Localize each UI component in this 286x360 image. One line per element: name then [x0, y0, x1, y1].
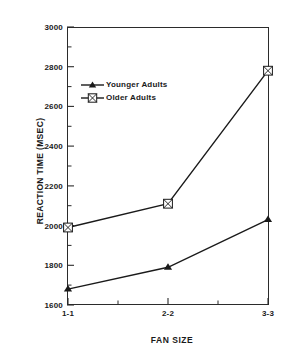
chart-figure: REACTION TIME (MSEC) 3000 2800 2600 2400…: [0, 0, 286, 360]
filled-triangle-marker-icon: [80, 79, 105, 91]
legend-label: Older Adults: [105, 93, 156, 102]
legend-item-older-adults: Older Adults: [80, 91, 167, 104]
x-axis-major-ticks: [68, 298, 268, 305]
y-axis-minor-ticks: [67, 47, 72, 285]
legend-label: Younger Adults: [105, 80, 167, 89]
plot-canvas: [0, 0, 286, 360]
series-younger-adults: [64, 216, 272, 292]
legend-item-younger-adults: Younger Adults: [80, 78, 167, 91]
x-in-square-marker-icon: [80, 92, 105, 104]
chart-legend: Younger Adults Older Adults: [80, 78, 167, 104]
